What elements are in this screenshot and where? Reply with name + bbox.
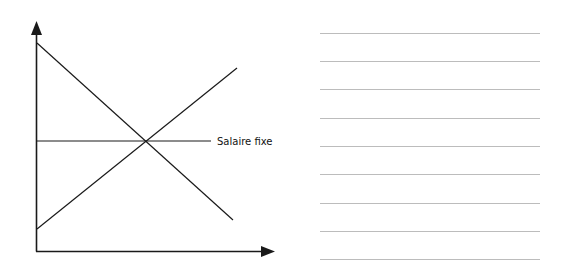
decreasing-line [37,43,233,220]
answer-line [320,61,540,62]
fixed-salary-label: Salaire fixe [217,136,272,147]
answer-line [320,118,540,119]
x-axis-arrow-icon [261,246,275,257]
answer-line [320,259,540,260]
answer-line [320,203,540,204]
answer-line [320,231,540,232]
answer-line [320,174,540,175]
increasing-line [37,68,237,229]
answer-line [320,33,540,34]
wage-diagram: Salaire fixe [0,0,300,276]
y-axis-arrow-icon [31,21,42,35]
answer-line [320,89,540,90]
answer-line [320,146,540,147]
answer-lines [320,0,540,276]
